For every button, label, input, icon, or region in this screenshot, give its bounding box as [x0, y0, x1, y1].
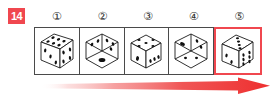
circled-number-label: ②	[97, 11, 107, 22]
question-number-badge: 14	[8, 8, 25, 24]
die-1-icon	[37, 30, 77, 72]
circled-number-label: ⑤	[234, 11, 244, 22]
option-number-3[interactable]: ③	[125, 9, 171, 23]
option-number-row: ① ② ③ ④ ⑤	[34, 9, 262, 23]
die-5-icon	[218, 30, 258, 72]
option-number-2[interactable]: ②	[80, 9, 126, 23]
die-3-icon	[126, 30, 166, 72]
die-4-icon	[171, 30, 211, 72]
die-2-icon	[82, 30, 122, 72]
circled-number-label: ③	[143, 11, 153, 22]
dice-option-grid	[34, 27, 262, 75]
dice-option-4[interactable]	[169, 28, 214, 74]
circled-number-label: ④	[189, 11, 199, 22]
dice-option-1[interactable]	[35, 28, 80, 74]
option-number-4[interactable]: ④	[171, 9, 217, 23]
progress-arrow-icon	[40, 77, 270, 95]
dice-option-2[interactable]	[80, 28, 125, 74]
option-number-5[interactable]: ⑤	[216, 9, 262, 23]
dice-option-3[interactable]	[125, 28, 170, 74]
option-number-1[interactable]: ①	[34, 9, 80, 23]
dice-option-5-selected[interactable]	[214, 27, 262, 75]
circled-number-label: ①	[52, 11, 62, 22]
